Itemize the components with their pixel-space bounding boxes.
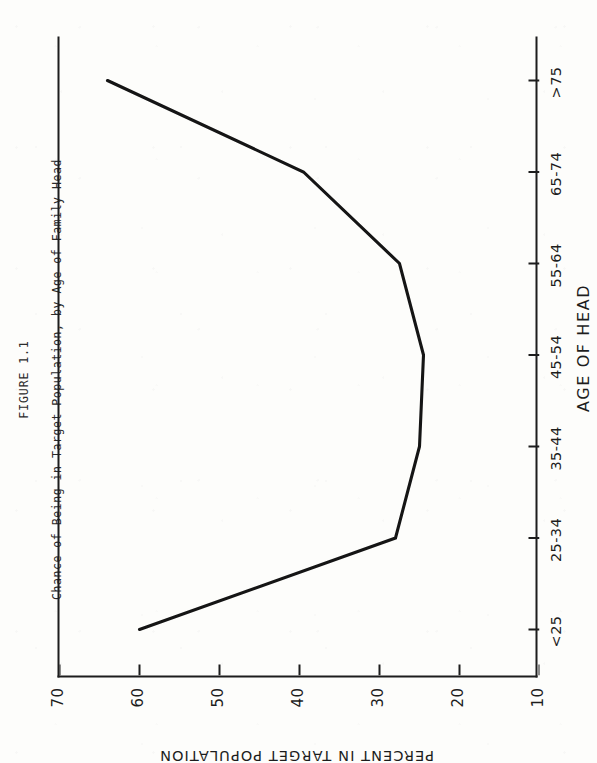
figure-caption: FIGURE 1.1 Chance of Being in Target Pop…: [0, 0, 63, 758]
plot-frame: [57, 36, 537, 677]
x-tick-label: 25-34: [547, 517, 563, 561]
x-tick-label: 35-44: [547, 426, 563, 470]
data-series-line: [107, 80, 423, 629]
y-tick-label: 50: [208, 687, 226, 721]
y-tick-label: 60: [128, 687, 146, 721]
y-tick-label: 40: [288, 687, 306, 721]
x-tick-label: >75: [547, 66, 563, 98]
figure-number: FIGURE 1.1: [16, 0, 30, 758]
x-tick-label: 45-54: [547, 334, 563, 378]
x-tick-label: 55-64: [547, 243, 563, 287]
x-tick-label: <25: [547, 615, 563, 647]
x-tick-label: 65-74: [547, 151, 563, 195]
y-tick-label: 70: [48, 687, 66, 721]
y-axis-title: PERCENT IN TARGET POPULATION: [158, 747, 433, 763]
y-tick-label: 30: [368, 687, 386, 721]
chart-plot-svg: [59, 34, 539, 675]
x-axis-title: AGE OF HEAD: [573, 283, 592, 411]
y-tick-label: 10: [528, 687, 546, 721]
y-tick-label: 20: [448, 687, 466, 721]
y-axis-tick-marks: [59, 664, 539, 675]
x-axis-tick-marks: [528, 80, 539, 629]
